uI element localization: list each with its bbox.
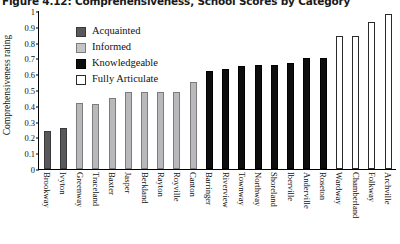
bar[interactable] bbox=[336, 36, 343, 169]
bar-slot bbox=[364, 11, 380, 169]
legend-item[interactable]: Knowledgeable bbox=[76, 56, 206, 71]
x-axis-label-slot: Iberville bbox=[283, 172, 299, 244]
x-axis-label-slot: Riverview bbox=[218, 172, 234, 244]
x-axis-label-slot: Townway bbox=[234, 172, 250, 244]
bar[interactable] bbox=[141, 92, 148, 169]
x-axis-label-slot: Wardway bbox=[331, 172, 347, 244]
x-axis-tick-label: Ivyton bbox=[59, 172, 68, 194]
x-axis-labels: BrookwayIvytonGreenwayTracelandBaxterJas… bbox=[39, 172, 396, 244]
bar[interactable] bbox=[157, 92, 164, 169]
x-axis-line bbox=[38, 169, 396, 170]
bar[interactable] bbox=[271, 65, 278, 169]
legend-item-label: Informed bbox=[92, 42, 131, 53]
bar[interactable] bbox=[44, 131, 51, 169]
x-axis-label-slot: Barringer bbox=[201, 172, 217, 244]
x-axis-tick-label: Traceland bbox=[92, 172, 101, 206]
x-axis-tick-label: Iberville bbox=[286, 172, 295, 201]
x-axis-tick-label: Wardway bbox=[335, 172, 344, 205]
x-axis-label-slot: Jasper bbox=[120, 172, 136, 244]
bar-slot bbox=[55, 11, 71, 169]
bar[interactable] bbox=[238, 66, 245, 169]
bar-slot bbox=[380, 11, 396, 169]
bar[interactable] bbox=[320, 58, 327, 169]
bar[interactable] bbox=[368, 22, 375, 169]
x-axis-tick-label: Folkway bbox=[368, 172, 377, 202]
bar[interactable] bbox=[287, 63, 294, 169]
x-axis-tick-label: Archville bbox=[384, 172, 393, 204]
y-axis-title: Comprehensiveness rating bbox=[0, 0, 14, 170]
bar[interactable] bbox=[60, 128, 67, 169]
x-axis-tick-label: Berkland bbox=[140, 172, 149, 204]
x-axis-label-slot: Berkland bbox=[136, 172, 152, 244]
bar[interactable] bbox=[255, 65, 262, 169]
x-axis-tick-label: Barringer bbox=[205, 172, 214, 205]
x-axis-label-slot: Brookway bbox=[39, 172, 55, 244]
x-axis-label-slot: Anderville bbox=[299, 172, 315, 244]
x-axis-tick-label: Riverview bbox=[221, 172, 230, 208]
x-axis-tick-label: Greenway bbox=[75, 172, 84, 207]
bar[interactable] bbox=[109, 98, 116, 169]
y-axis-tick-mark bbox=[36, 170, 39, 171]
x-axis-tick-label: Baxter bbox=[108, 172, 117, 195]
x-axis-label-slot: Royville bbox=[169, 172, 185, 244]
x-axis-tick-label: Brookway bbox=[43, 172, 52, 208]
bar-slot bbox=[283, 11, 299, 169]
bar[interactable] bbox=[92, 104, 99, 169]
x-axis-tick-label: Shoreland bbox=[270, 172, 279, 207]
x-axis-label-slot: Canton bbox=[185, 172, 201, 244]
bar-slot bbox=[315, 11, 331, 169]
x-axis-tick-label: Townway bbox=[238, 172, 247, 206]
legend-swatch-icon bbox=[76, 43, 86, 53]
bar[interactable] bbox=[206, 71, 213, 169]
bar[interactable] bbox=[173, 92, 180, 169]
x-axis-label-slot: Folkway bbox=[364, 172, 380, 244]
legend-swatch-icon bbox=[76, 27, 86, 37]
chart-legend: AcquaintedInformedKnowledgeableFully Art… bbox=[76, 24, 206, 88]
legend-item-label: Knowledgeable bbox=[92, 58, 158, 69]
x-axis-tick-label: Chamberland bbox=[351, 172, 360, 218]
legend-item-label: Fully Articulate bbox=[92, 74, 158, 85]
bar[interactable] bbox=[76, 103, 83, 169]
x-axis-tick-label: Anderville bbox=[303, 172, 312, 209]
bar[interactable] bbox=[222, 69, 229, 169]
bar[interactable] bbox=[125, 92, 132, 169]
bar[interactable] bbox=[352, 36, 359, 169]
x-axis-tick-label: Jasper bbox=[124, 172, 133, 193]
x-axis-label-slot: Traceland bbox=[88, 172, 104, 244]
x-axis-label-slot: Archville bbox=[380, 172, 396, 244]
bar-slot bbox=[250, 11, 266, 169]
legend-swatch-icon bbox=[76, 59, 86, 69]
x-axis-tick-label: Rayton bbox=[156, 172, 165, 197]
legend-item-label: Acquainted bbox=[92, 26, 140, 37]
bar-slot bbox=[266, 11, 282, 169]
x-axis-tick-label: Northway bbox=[254, 172, 263, 206]
bar-slot bbox=[218, 11, 234, 169]
x-axis-label-slot: Baxter bbox=[104, 172, 120, 244]
bar-chart: Figure 4.12: Comprehensiveness, School S… bbox=[0, 0, 400, 244]
x-axis-label-slot: Roseton bbox=[315, 172, 331, 244]
x-axis-label-slot: Rayton bbox=[153, 172, 169, 244]
y-axis-title-text: Comprehensiveness rating bbox=[2, 35, 12, 136]
x-axis-label-slot: Northway bbox=[250, 172, 266, 244]
bar[interactable] bbox=[385, 14, 392, 169]
x-axis-tick-label: Roseton bbox=[319, 172, 328, 200]
x-axis-label-slot: Shoreland bbox=[266, 172, 282, 244]
bar[interactable] bbox=[190, 82, 197, 169]
chart-title: Figure 4.12: Comprehensiveness, School S… bbox=[2, 0, 398, 7]
bar-slot bbox=[331, 11, 347, 169]
x-axis-tick-label: Canton bbox=[189, 172, 198, 197]
bar-slot bbox=[347, 11, 363, 169]
bar-slot bbox=[39, 11, 55, 169]
legend-item[interactable]: Fully Articulate bbox=[76, 72, 206, 87]
bar[interactable] bbox=[303, 58, 310, 169]
legend-item[interactable]: Informed bbox=[76, 40, 206, 55]
legend-swatch-icon bbox=[76, 75, 86, 85]
legend-item[interactable]: Acquainted bbox=[76, 24, 206, 39]
bar-slot bbox=[299, 11, 315, 169]
x-axis-label-slot: Ivyton bbox=[55, 172, 71, 244]
x-axis-label-slot: Greenway bbox=[71, 172, 87, 244]
x-axis-label-slot: Chamberland bbox=[347, 172, 363, 244]
bar-slot bbox=[234, 11, 250, 169]
x-axis-tick-label: Royville bbox=[173, 172, 182, 202]
